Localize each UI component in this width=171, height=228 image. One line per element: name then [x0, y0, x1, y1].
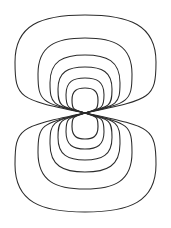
contour-diagram [0, 0, 171, 228]
diagram-background [0, 0, 171, 228]
contour-canvas [0, 0, 171, 228]
